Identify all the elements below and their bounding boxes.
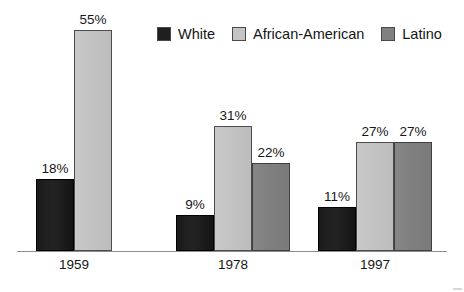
bar-value-label: 22%	[257, 146, 284, 160]
category-label: 1959	[36, 258, 112, 272]
category-label: 1978	[176, 258, 290, 272]
corner-artifact	[453, 288, 462, 290]
bar-column[interactable]: 31%	[214, 126, 252, 251]
axis-baseline	[17, 251, 447, 252]
bar-value-label: 27%	[399, 125, 426, 139]
bar-column[interactable]: 27%	[356, 142, 394, 251]
bar-column[interactable]: 55%	[74, 30, 112, 251]
bar-value-label: 11%	[324, 190, 350, 204]
bar[interactable]	[318, 207, 356, 251]
bar-value-label: 9%	[185, 198, 205, 212]
bar[interactable]	[394, 142, 432, 251]
bar[interactable]	[176, 215, 214, 251]
bar-group: 18%55%	[36, 30, 112, 251]
bar-column[interactable]: 22%	[252, 163, 290, 251]
bar[interactable]	[214, 126, 252, 251]
bar-value-label: 55%	[79, 13, 106, 27]
bar-column[interactable]: 18%	[36, 179, 74, 251]
bar-group: 9%31%22%	[176, 126, 290, 251]
bar[interactable]	[74, 30, 112, 251]
bar-chart: WhiteAfrican-AmericanLatino 18%55%19599%…	[0, 0, 464, 292]
category-label: 1997	[318, 258, 432, 272]
bar[interactable]	[36, 179, 74, 251]
bar-value-label: 27%	[361, 125, 388, 139]
plot-area: 18%55%19599%31%22%197811%27%27%1997	[0, 0, 464, 292]
bar-value-label: 18%	[41, 162, 68, 176]
bar-column[interactable]: 9%	[176, 215, 214, 251]
bar[interactable]	[356, 142, 394, 251]
bar[interactable]	[252, 163, 290, 251]
bar-group: 11%27%27%	[318, 142, 432, 251]
bar-column[interactable]: 27%	[394, 142, 432, 251]
bar-column[interactable]: 11%	[318, 207, 356, 251]
bar-value-label: 31%	[219, 109, 246, 123]
